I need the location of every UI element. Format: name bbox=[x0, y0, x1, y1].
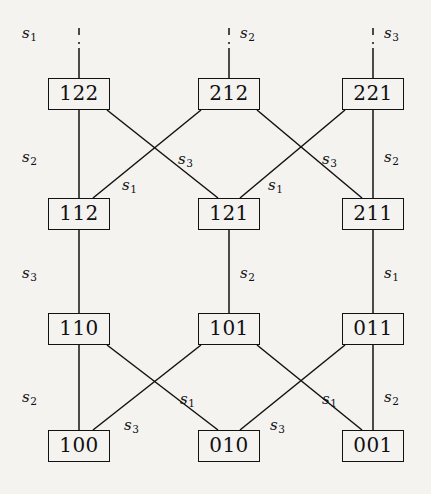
node-011[interactable]: 011 bbox=[342, 313, 404, 345]
edge-label-top-s3: s3 bbox=[384, 26, 398, 41]
node-122[interactable]: 122 bbox=[48, 78, 110, 110]
edge-label-101-100: s3 bbox=[124, 418, 138, 433]
edge-label-221-121: s1 bbox=[268, 178, 282, 193]
edge-label-211-011: s1 bbox=[384, 266, 398, 281]
node-110[interactable]: 110 bbox=[48, 313, 110, 345]
node-221[interactable]: 221 bbox=[342, 78, 404, 110]
edge-label-top-s1: s1 bbox=[22, 26, 36, 41]
edge-011-010 bbox=[240, 345, 345, 430]
node-101[interactable]: 101 bbox=[198, 313, 260, 345]
edge-label-122-112: s2 bbox=[22, 150, 36, 165]
node-112[interactable]: 112 bbox=[48, 198, 110, 230]
node-100[interactable]: 100 bbox=[48, 430, 110, 462]
edge-label-top-s2: s2 bbox=[240, 26, 254, 41]
edge-label-110-100: s2 bbox=[22, 390, 36, 405]
node-001[interactable]: 001 bbox=[342, 430, 404, 462]
edge-label-101-001: s1 bbox=[322, 392, 336, 407]
graph-edges bbox=[0, 0, 431, 494]
edge-label-212-211: s3 bbox=[322, 152, 336, 167]
edge-label-221-211: s2 bbox=[384, 150, 398, 165]
edge-label-121-101: s2 bbox=[240, 266, 254, 281]
edge-label-011-010: s3 bbox=[270, 418, 284, 433]
edge-label-011-001: s2 bbox=[384, 390, 398, 405]
node-211[interactable]: 211 bbox=[342, 198, 404, 230]
edge-label-212-112: s1 bbox=[122, 178, 136, 193]
diagram-canvas: 122 212 221 112 121 211 110 101 011 100 … bbox=[0, 0, 431, 494]
edge-label-122-121: s3 bbox=[178, 152, 192, 167]
edge-label-112-110: s3 bbox=[22, 266, 36, 281]
node-010[interactable]: 010 bbox=[198, 430, 260, 462]
edge-label-110-010: s1 bbox=[180, 392, 194, 407]
node-121[interactable]: 121 bbox=[198, 198, 260, 230]
node-212[interactable]: 212 bbox=[198, 78, 260, 110]
edge-101-100 bbox=[93, 345, 201, 430]
